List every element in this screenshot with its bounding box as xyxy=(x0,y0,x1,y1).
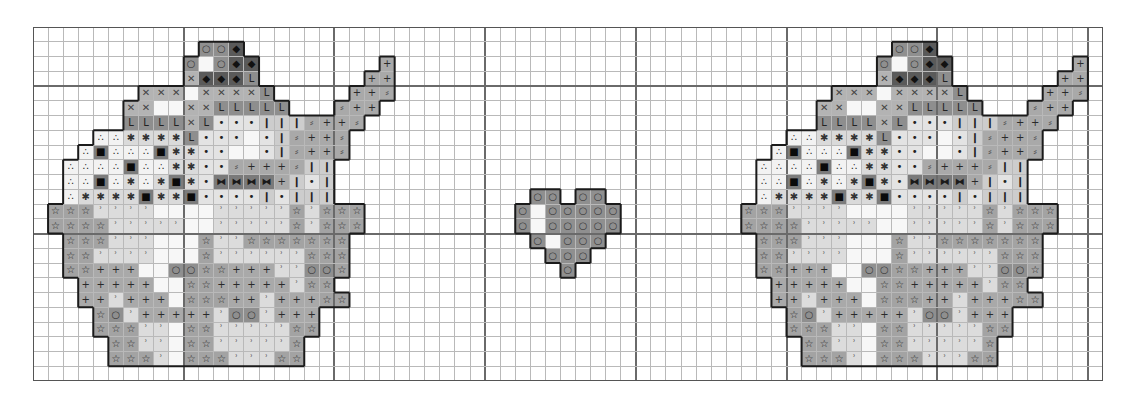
stitch-asterisk: ✱ xyxy=(123,189,138,204)
stitch-plus: + xyxy=(832,278,847,293)
stitch-star: ☆ xyxy=(199,278,214,293)
stitch-tick: ʾ xyxy=(138,219,153,234)
stitch-tick: ʾ xyxy=(259,248,274,263)
stitch-white xyxy=(847,248,862,263)
stitch-circle: ○ xyxy=(515,219,530,234)
stitch-circle: ○ xyxy=(576,189,591,204)
stitch-plus: + xyxy=(259,160,274,175)
stitch-triad: ∴ xyxy=(93,160,108,175)
stitch-tick: ʾ xyxy=(982,278,997,293)
stitch-ell: L xyxy=(259,101,274,116)
stitch-plus: + xyxy=(802,263,817,278)
stitch-plus: + xyxy=(1013,116,1028,131)
stitch-star: ☆ xyxy=(892,322,907,337)
stitch-tick: ʾ xyxy=(937,352,952,367)
stitch-star: ☆ xyxy=(1028,263,1043,278)
stitch-dot: • xyxy=(259,145,274,160)
stitch-white xyxy=(169,278,184,293)
stitch-circle: ○ xyxy=(606,219,621,234)
stitch-square: ■ xyxy=(154,145,169,160)
stitch-tick: ʾ xyxy=(304,204,319,219)
cross-stitch-chart: ○○◆○○◆◆+✕◆◆◆L++✕✕✕✕✕✕✕L++⸗✕✕✕✕LLLLL⸗++LL… xyxy=(33,27,1103,381)
stitch-diamond-dark: ◆ xyxy=(922,42,937,57)
stitch-plus: + xyxy=(93,263,108,278)
stitch-plus: + xyxy=(259,278,274,293)
stitch-star: ☆ xyxy=(771,263,786,278)
stitch-spoon-edge: ⸗ xyxy=(334,101,349,116)
stitch-star: ☆ xyxy=(817,352,832,367)
stitch-asterisk: ✱ xyxy=(169,145,184,160)
stitch-star: ☆ xyxy=(93,234,108,249)
stitch-tick: ʾ xyxy=(244,322,259,337)
stitch-triad: ∴ xyxy=(78,145,93,160)
stitch-plus: + xyxy=(334,116,349,131)
stitch-tick: ʾ xyxy=(108,293,123,308)
stitch-plus: + xyxy=(138,307,153,322)
stitch-tick: ʾ xyxy=(274,322,289,337)
stitch-tick: ʾ xyxy=(952,307,967,322)
stitch-circle: ○ xyxy=(560,263,575,278)
stitch-tick: ʾ xyxy=(967,204,982,219)
stitch-plus: + xyxy=(274,160,289,175)
stitch-square: ■ xyxy=(169,175,184,190)
stitch-bar: ❙ xyxy=(952,116,967,131)
stitch-dot: • xyxy=(907,189,922,204)
stitch-triad: ∴ xyxy=(93,130,108,145)
stitch-star: ☆ xyxy=(982,352,997,367)
stitch-white xyxy=(169,204,184,219)
stitch-white xyxy=(530,219,545,234)
stitch-asterisk: ✱ xyxy=(862,130,877,145)
stitch-asterisk: ✱ xyxy=(169,160,184,175)
stitch-star: ☆ xyxy=(289,337,304,352)
stitch-white xyxy=(154,278,169,293)
stitch-plus: + xyxy=(365,86,380,101)
stitch-triad: ∴ xyxy=(771,145,786,160)
stitch-bar: ❙ xyxy=(259,189,274,204)
stitch-square: ■ xyxy=(138,189,153,204)
stitch-plus: + xyxy=(93,278,108,293)
stitch-triad: ∴ xyxy=(154,160,169,175)
stitch-spoon-edge: ⸗ xyxy=(982,145,997,160)
stitch-tick: ʾ xyxy=(274,248,289,263)
stitch-white xyxy=(877,219,892,234)
stitch-triad: ∴ xyxy=(756,175,771,190)
stitch-star: ☆ xyxy=(802,337,817,352)
stitch-tick: ʾ xyxy=(244,219,259,234)
stitch-star: ☆ xyxy=(952,234,967,249)
stitch-plus: + xyxy=(922,293,937,308)
stitch-tick: ʾ xyxy=(952,219,967,234)
stitch-square: ■ xyxy=(832,189,847,204)
stitch-star: ☆ xyxy=(817,337,832,352)
stitch-square: ■ xyxy=(877,189,892,204)
stitch-star: ☆ xyxy=(334,263,349,278)
stitch-asterisk: ✱ xyxy=(123,175,138,190)
stitch-tick: ʾ xyxy=(289,248,304,263)
stitch-square: ■ xyxy=(93,145,108,160)
stitch-tick: ʾ xyxy=(967,219,982,234)
stitch-cross: ✕ xyxy=(877,71,892,86)
stitch-star: ☆ xyxy=(214,263,229,278)
stitch-plus: + xyxy=(952,160,967,175)
stitch-tick: ʾ xyxy=(937,204,952,219)
stitch-star: ☆ xyxy=(997,248,1012,263)
stitch-asterisk: ✱ xyxy=(862,160,877,175)
stitch-tick: ʾ xyxy=(259,352,274,367)
stitch-tick: ʾ xyxy=(274,263,289,278)
stitch-ell: L xyxy=(123,116,138,131)
stitch-plus: + xyxy=(802,278,817,293)
stitch-cross: ✕ xyxy=(832,86,847,101)
stitch-tick: ʾ xyxy=(289,278,304,293)
stitch-dot: • xyxy=(892,160,907,175)
stitch-tick: ʾ xyxy=(802,248,817,263)
stitch-plus: + xyxy=(229,263,244,278)
stitch-tick: ʾ xyxy=(289,263,304,278)
stitch-white xyxy=(184,219,199,234)
stitch-triad: ∴ xyxy=(108,160,123,175)
stitch-bar: ❙ xyxy=(967,116,982,131)
stitch-dot: • xyxy=(199,130,214,145)
stitch-star: ☆ xyxy=(1028,234,1043,249)
stitch-plus: + xyxy=(319,116,334,131)
stitch-triad: ∴ xyxy=(847,160,862,175)
stitch-star: ☆ xyxy=(319,204,334,219)
stitch-star: ☆ xyxy=(892,248,907,263)
